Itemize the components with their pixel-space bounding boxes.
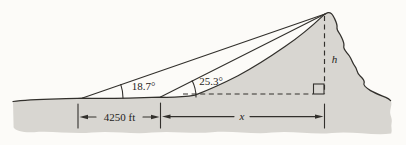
- near-angle-label: 18.7°: [132, 80, 156, 92]
- mountain-survey-figure: 18.7° 25.3° h 4250 ft x: [0, 0, 406, 145]
- baseline-distance-label: 4250 ft: [104, 111, 135, 123]
- near-angle-arc: [121, 85, 123, 98]
- height-label: h: [332, 53, 338, 65]
- x-distance-label: x: [239, 110, 245, 122]
- terrain-silhouette: [13, 13, 392, 135]
- far-angle-label: 25.3°: [199, 75, 223, 87]
- diagram-canvas: 18.7° 25.3° h 4250 ft x: [0, 0, 406, 145]
